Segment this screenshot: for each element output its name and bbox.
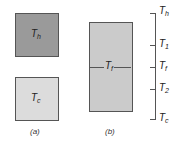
scale-axis <box>155 13 156 119</box>
tick-th <box>150 13 156 14</box>
tick-tf <box>150 67 156 68</box>
tick-t2 <box>150 89 156 90</box>
tick-tc <box>150 119 156 120</box>
hot-block: Th <box>15 13 59 57</box>
cold-block: Tc <box>15 77 59 121</box>
tick-label-tc: Tc <box>159 113 169 124</box>
tick-t1 <box>150 45 156 46</box>
caption-a: (a) <box>30 128 40 136</box>
final-block-label: Tf <box>104 61 114 72</box>
tick-label-tf: Tf <box>159 61 167 72</box>
tick-label-t1: T1 <box>159 39 169 50</box>
caption-b: (b) <box>105 128 115 136</box>
final-block: Tf <box>89 22 133 112</box>
cold-block-label: Tc <box>31 93 41 104</box>
hot-block-label: Th <box>31 29 41 40</box>
tick-label-th: Th <box>159 6 169 17</box>
tick-label-t2: T2 <box>159 83 169 94</box>
